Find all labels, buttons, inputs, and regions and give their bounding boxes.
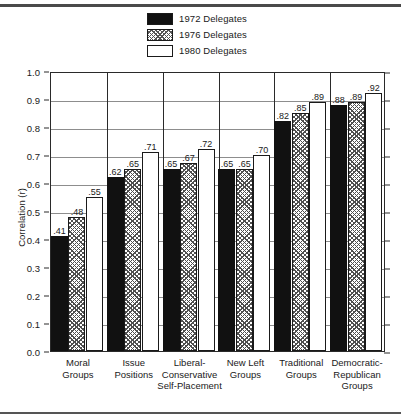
bar-1980-delegates-1 <box>142 152 159 351</box>
bottom-rule <box>0 412 401 414</box>
y-axis-tick-label: 0.4 <box>27 235 40 246</box>
bar-1976-delegates-0 <box>68 217 85 351</box>
y-axis-right-tick <box>384 213 390 214</box>
bar-value-label: .70 <box>256 145 269 155</box>
bar-value-label: .65 <box>165 159 178 169</box>
bar-value-label: .65 <box>238 159 251 169</box>
plot-area: .41.48.55.62.65.71.65.67.72.65.65.70.82.… <box>50 72 385 352</box>
y-axis-tick-label: 0.9 <box>27 95 40 106</box>
legend-item-1976: 1976 Delegates <box>147 28 247 41</box>
y-axis-tick <box>44 156 49 157</box>
legend-label-1980: 1980 Delegates <box>179 45 247 56</box>
bar-value-label: .62 <box>109 167 122 177</box>
bar-1980-delegates-0 <box>86 197 103 351</box>
y-axis-right-tick <box>384 129 390 130</box>
y-axis-tick <box>44 324 49 325</box>
y-axis-tick-label: 0.7 <box>27 151 40 162</box>
y-axis-tick-label: 0.3 <box>27 263 40 274</box>
y-axis-tick <box>44 100 49 101</box>
y-axis-tick <box>44 72 49 73</box>
y-axis-tick <box>44 128 49 129</box>
bar-1976-delegates-2 <box>180 163 197 351</box>
y-axis-tick <box>44 352 49 353</box>
bar-value-label: .55 <box>88 187 101 197</box>
bar-value-label: .82 <box>276 111 289 121</box>
bar-1976-delegates-1 <box>124 169 141 351</box>
y-axis-tick <box>44 268 49 269</box>
bar-value-label: .89 <box>350 92 363 102</box>
y-axis-right-tick <box>384 269 390 270</box>
y-axis-right-tick <box>384 157 390 158</box>
y-axis-tick-label: 0.5 <box>27 207 40 218</box>
bar-1976-delegates-5 <box>348 102 365 351</box>
hatched-swatch-icon <box>147 29 173 41</box>
y-axis-right-tick <box>384 353 390 354</box>
bar-1980-delegates-3 <box>253 155 270 351</box>
bar-1972-delegates-1 <box>107 177 124 351</box>
bar-1976-delegates-4 <box>292 113 309 351</box>
y-axis-tick-label: 0.1 <box>27 319 40 330</box>
y-axis-right-tick <box>384 185 390 186</box>
bar-value-label: .72 <box>200 139 213 149</box>
legend-label-1972: 1972 Delegates <box>179 13 247 24</box>
bar-value-label: .92 <box>367 83 380 93</box>
y-axis-title: Correlation (r) <box>16 188 27 247</box>
bar-value-label: .89 <box>311 92 324 102</box>
y-axis-tick-label: 0.2 <box>27 291 40 302</box>
legend-label-1976: 1976 Delegates <box>179 29 247 40</box>
bar-value-label: .65 <box>221 159 234 169</box>
bar-value-label: .67 <box>182 153 195 163</box>
bar-value-label: .85 <box>294 103 307 113</box>
open-white-swatch-icon <box>147 45 173 57</box>
bar-value-label: .48 <box>71 207 84 217</box>
y-axis-tick-label: 1.0 <box>27 67 40 78</box>
bar-value-label: .71 <box>144 142 157 152</box>
bar-1972-delegates-4 <box>274 121 291 351</box>
y-axis-right-tick <box>384 297 390 298</box>
solid-black-swatch-icon <box>147 13 173 25</box>
legend-item-1972: 1972 Delegates <box>147 12 247 25</box>
bar-1980-delegates-4 <box>309 102 326 351</box>
bar-1980-delegates-2 <box>198 149 215 351</box>
legend-item-1980: 1980 Delegates <box>147 44 247 57</box>
top-rule <box>0 4 401 7</box>
chart-legend: 1972 Delegates 1976 Delegates 1980 Deleg… <box>147 12 247 57</box>
y-axis-tick <box>44 296 49 297</box>
y-axis-right-tick <box>384 325 390 326</box>
y-axis-tick-label: 0.0 <box>27 347 40 358</box>
y-axis-right-tick <box>384 73 390 74</box>
y-axis-tick-label: 0.6 <box>27 179 40 190</box>
bar-value-label: .41 <box>53 226 66 236</box>
y-axis-right-tick <box>384 241 390 242</box>
x-axis-category-labels: Moral GroupsIssue PositionsLiberal- Cons… <box>50 357 385 413</box>
y-axis-right-tick <box>384 101 390 102</box>
x-axis-category-label: Democratic- Republican Groups <box>315 357 399 392</box>
y-axis-tick <box>44 240 49 241</box>
y-axis-tick-label: 0.8 <box>27 123 40 134</box>
bar-1972-delegates-2 <box>163 169 180 351</box>
y-axis-tick <box>44 184 49 185</box>
bar-1972-delegates-0 <box>51 236 68 351</box>
bar-1980-delegates-5 <box>365 93 382 351</box>
bar-1972-delegates-3 <box>218 169 235 351</box>
bar-1972-delegates-5 <box>330 105 347 351</box>
bar-value-label: .65 <box>126 159 139 169</box>
bar-1976-delegates-3 <box>236 169 253 351</box>
y-axis-tick <box>44 212 49 213</box>
bar-value-label: .88 <box>332 95 345 105</box>
